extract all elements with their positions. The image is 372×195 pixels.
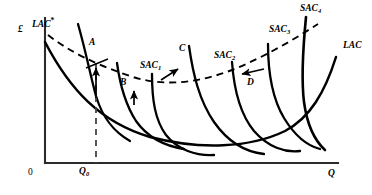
sac3-label: SAC3 bbox=[269, 25, 290, 35]
point-d-label: D bbox=[247, 78, 254, 88]
sac4-label-sub: 4 bbox=[318, 7, 321, 14]
sac4-label-base: SAC bbox=[300, 3, 318, 13]
lac-label: LAC bbox=[343, 41, 361, 51]
q-zero-tick-sub: 0 bbox=[86, 170, 89, 177]
y-axis-label: £ bbox=[18, 25, 23, 35]
sac2-label-base: SAC bbox=[214, 50, 232, 60]
cost-curve-diagram: £ LAC* LAC A B C D SAC1 SAC2 SAC3 SAC4 0… bbox=[0, 0, 372, 195]
sac2-label: SAC2 bbox=[214, 51, 235, 61]
point-a-label: A bbox=[89, 38, 95, 48]
origin-label: 0 bbox=[28, 168, 33, 178]
sac4-label: SAC4 bbox=[300, 4, 321, 14]
sac1-label: SAC1 bbox=[140, 61, 161, 71]
sac-curve-2 bbox=[189, 46, 264, 154]
sac1-label-base: SAC bbox=[140, 60, 158, 70]
lac-star-label: LAC* bbox=[32, 20, 54, 30]
figure-canvas bbox=[0, 0, 372, 195]
sac3-label-base: SAC bbox=[269, 24, 287, 34]
q-zero-tick-base: Q bbox=[79, 166, 86, 176]
point-c-label: C bbox=[179, 44, 185, 54]
lac-star-label-base: LAC bbox=[32, 19, 50, 29]
sac2-label-sub: 2 bbox=[232, 54, 235, 61]
point-b-label: B bbox=[120, 78, 126, 88]
arrow-to-point-c bbox=[161, 69, 178, 80]
q-zero-tick-label: Q0 bbox=[79, 167, 89, 177]
arrow-to-point-d bbox=[242, 69, 264, 74]
sac1-label-sub: 1 bbox=[158, 64, 161, 71]
sac3-label-sub: 3 bbox=[287, 28, 290, 35]
x-axis-label: Q bbox=[328, 169, 335, 179]
lac-star-label-sup: * bbox=[50, 16, 54, 25]
sac-curve-4 bbox=[303, 17, 325, 150]
